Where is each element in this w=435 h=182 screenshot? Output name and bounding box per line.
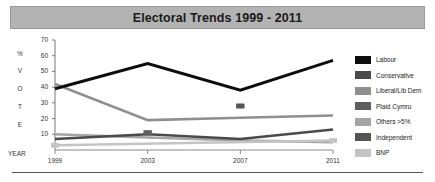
y-tick-label: 10 — [34, 130, 48, 137]
legend-item: BNP — [355, 145, 433, 161]
x-tick-label: 2011 — [318, 157, 348, 164]
chart-title-banner: Electoral Trends 1999 - 2011 — [10, 6, 425, 29]
legend-swatch-icon — [355, 87, 371, 95]
x-tick-label: 1999 — [40, 157, 70, 164]
page-title: Electoral Trends 1999 - 2011 — [133, 11, 303, 25]
y-tick-label: 30 — [34, 99, 48, 106]
chart-figure: Electoral Trends 1999 - 2011 % V O T E 1… — [0, 0, 435, 182]
legend-item-label: Conservative — [376, 72, 414, 79]
legend-item-label: Others >5% — [376, 118, 411, 125]
series-marker — [236, 104, 244, 109]
x-tick-label: 2003 — [133, 157, 163, 164]
legend-swatch-icon — [355, 118, 371, 126]
series-marker — [144, 130, 152, 135]
series-marker-bnp — [329, 138, 337, 143]
series-line-liberal-lib-dem — [55, 84, 333, 120]
series-line-conservative — [55, 130, 333, 139]
chart-legend: LabourConservativeLiberal/Lib DemPlaid C… — [355, 52, 433, 161]
y-tick-label: 70 — [34, 36, 48, 43]
legend-swatch-icon — [355, 102, 371, 110]
legend-item-label: Independent — [376, 134, 412, 141]
legend-item: Others >5% — [355, 114, 433, 130]
axis-letter-t: T — [14, 103, 26, 110]
legend-item: Plaid Cymru — [355, 99, 433, 115]
legend-item-label: Labour — [376, 56, 396, 63]
y-tick-label: 60 — [34, 52, 48, 59]
legend-swatch-icon — [355, 56, 371, 64]
legend-item: Liberal/Lib Dem — [355, 83, 433, 99]
y-tick-label: 20 — [34, 115, 48, 122]
series-layer — [51, 60, 337, 147]
axis-letter-percent: % — [14, 50, 26, 57]
legend-item-label: Liberal/Lib Dem — [376, 87, 422, 94]
axis-letter-e: E — [14, 121, 26, 128]
legend-item: Labour — [355, 52, 433, 68]
series-line-bnp — [55, 141, 333, 146]
x-tick-label: 2007 — [225, 157, 255, 164]
legend-item: Conservative — [355, 68, 433, 84]
series-marker-bnp — [51, 143, 59, 148]
bottom-divider — [12, 172, 423, 173]
series-line-labour — [55, 60, 333, 90]
axis-letter-o: O — [14, 85, 26, 92]
legend-item-label: Plaid Cymru — [376, 103, 411, 110]
legend-swatch-icon — [355, 149, 371, 157]
legend-item: Independent — [355, 130, 433, 146]
legend-item-label: BNP — [376, 149, 389, 156]
legend-swatch-icon — [355, 133, 371, 141]
legend-swatch-icon — [355, 71, 371, 79]
axis-letter-v: V — [14, 67, 26, 74]
plot-area: % V O T E 10203040506070 199920032007201… — [0, 32, 345, 157]
y-tick-label: 40 — [34, 83, 48, 90]
y-tick-label: 50 — [34, 67, 48, 74]
axis-title-year: YEAR — [8, 150, 26, 157]
x-axis-ticks — [55, 150, 333, 154]
